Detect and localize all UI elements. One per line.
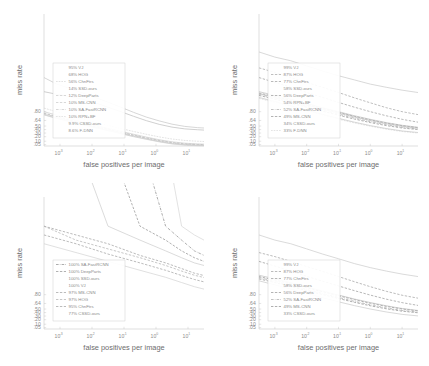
x-tick-label: 10-1 xyxy=(333,149,341,155)
x-tick-label: 101 xyxy=(397,149,405,155)
svg-text:0: 0 xyxy=(156,332,158,336)
legend-entry-label: 56% DeepParts xyxy=(284,290,314,295)
svg-text:1: 1 xyxy=(188,332,190,336)
legend-entry-label: 99% VJ xyxy=(284,262,299,267)
legend-entry-label: 10% SA-FastRCNN xyxy=(69,107,107,112)
svg-text:-1: -1 xyxy=(338,149,341,153)
svg-text:-2: -2 xyxy=(92,332,95,336)
x-tick-label: 101 xyxy=(183,332,191,338)
y-tick-label: .80 xyxy=(34,108,41,114)
legend-entry-label: 95% ChnFtrs xyxy=(69,304,94,309)
y-axis-label: miss rate xyxy=(15,248,24,278)
legend-entry-label: 58% SSD-ours xyxy=(284,283,312,288)
y-tick-label: .50 xyxy=(249,123,256,129)
legend-entry-label: 100% VJ xyxy=(69,283,86,288)
legend-entry-label: 33% CSSD-ours xyxy=(284,311,316,316)
x-tick-label: 100 xyxy=(365,149,373,155)
svg-text:-1: -1 xyxy=(124,149,127,153)
svg-text:-2: -2 xyxy=(306,332,309,336)
x-tick-label: 10-2 xyxy=(87,149,95,155)
svg-text:0: 0 xyxy=(371,332,373,336)
svg-text:-1: -1 xyxy=(124,332,127,336)
legend-entry-label: 9.9% CSSD-ours xyxy=(69,121,102,126)
legend-entry-label: 77% ChnFtrs xyxy=(284,276,309,281)
legend-entry-label: 54% RPN+BF xyxy=(284,100,311,105)
chart-panel-d: .05.10.20.30.40.50.64.80110-310-210-1100… xyxy=(215,183,429,366)
plot-b: .05.10.20.30.40.50.64.80110-310-210-1100… xyxy=(215,0,429,183)
svg-text:-2: -2 xyxy=(306,149,309,153)
x-tick-label: 10-2 xyxy=(301,332,309,338)
y-tick-label: .50 xyxy=(249,306,256,312)
x-tick-label: 10-1 xyxy=(119,149,127,155)
y-tick-label: .80 xyxy=(249,291,256,297)
chart-panel-a: .05.10.20.30.40.50.64.80110-310-210-1100… xyxy=(0,0,215,183)
svg-text:1: 1 xyxy=(402,332,404,336)
legend-entry-label: 77% CSSD-ours xyxy=(69,311,101,316)
x-tick-label: 10-3 xyxy=(55,149,63,155)
y-tick-label: .64 xyxy=(249,300,256,306)
legend-entry-label: 56% ChnFtrs xyxy=(69,79,94,84)
chart-panel-c: .05.10.20.30.40.50.64.80110-310-210-1100… xyxy=(0,183,215,366)
chart-legend: 99% VJ87% HOG77% ChnFtrs58% SSD-ours56% … xyxy=(268,63,340,138)
x-tick-label: 10-1 xyxy=(333,332,341,338)
plot-a: .05.10.20.30.40.50.64.80110-310-210-1100… xyxy=(0,0,215,183)
x-axis-label: false positives per image xyxy=(83,343,164,352)
svg-text:-3: -3 xyxy=(60,149,63,153)
y-axis-label: miss rate xyxy=(230,65,239,95)
legend-entry-label: 33% F-DNN xyxy=(284,128,307,133)
x-tick-label: 101 xyxy=(183,149,191,155)
legend-entry-label: 95% VJ xyxy=(69,65,84,70)
svg-text:1: 1 xyxy=(402,149,404,153)
legend-entry-label: 87% HOG xyxy=(284,269,304,274)
legend-entry-label: 10% RPN+BF xyxy=(69,114,96,119)
svg-text:-3: -3 xyxy=(275,149,278,153)
svg-text:-1: -1 xyxy=(338,332,341,336)
legend-entry-label: 10% MS-CNN xyxy=(69,100,96,105)
chart-legend: 99% VJ87% HOG77% ChnFtrs58% SSD-ours56% … xyxy=(268,260,340,321)
y-tick-label: .50 xyxy=(34,306,41,312)
legend-entry-label: 49% MS-CNN xyxy=(284,304,311,309)
x-axis-label: false positives per image xyxy=(83,160,164,169)
legend-entry-label: 100% DeepParts xyxy=(69,269,102,274)
x-axis-label: false positives per image xyxy=(298,160,379,169)
chart-legend: 100% SA-FastRCNN100% DeepParts100% SSD-o… xyxy=(53,260,125,321)
x-tick-label: 10-2 xyxy=(87,332,95,338)
legend-entry-label: 97% HOG xyxy=(69,297,89,302)
series-curve xyxy=(44,183,204,240)
series-curve xyxy=(44,183,204,265)
svg-text:1: 1 xyxy=(188,149,190,153)
figure-grid: .05.10.20.30.40.50.64.80110-310-210-1100… xyxy=(0,0,429,366)
svg-text:0: 0 xyxy=(371,149,373,153)
y-tick-label: .50 xyxy=(34,123,41,129)
plot-c: .05.10.20.30.40.50.64.80110-310-210-1100… xyxy=(0,183,215,366)
x-tick-label: 10-3 xyxy=(55,332,63,338)
y-tick-label: .80 xyxy=(249,108,256,114)
x-axis-label: false positives per image xyxy=(298,343,379,352)
y-axis-label: miss rate xyxy=(15,65,24,95)
y-axis-label: miss rate xyxy=(230,248,239,278)
x-tick-label: 101 xyxy=(397,332,405,338)
y-tick-label: .64 xyxy=(34,117,41,123)
legend-entry-label: 77% ChnFtrs xyxy=(284,79,309,84)
x-tick-label: 100 xyxy=(365,332,373,338)
svg-text:0: 0 xyxy=(156,149,158,153)
chart-legend: 95% VJ68% HOG56% ChnFtrs14% SSD-ours12% … xyxy=(53,63,125,138)
x-tick-label: 100 xyxy=(151,332,159,338)
legend-entry-label: 34% CSSD-ours xyxy=(284,121,316,126)
legend-entry-label: 68% HOG xyxy=(69,72,89,77)
legend-entry-label: 100% SSD-ours xyxy=(69,276,100,281)
chart-panel-b: .05.10.20.30.40.50.64.80110-310-210-1100… xyxy=(215,0,429,183)
plot-d: .05.10.20.30.40.50.64.80110-310-210-1100… xyxy=(215,183,429,366)
legend-entry-label: 52% SA-FastRCNN xyxy=(284,297,322,302)
x-tick-label: 10-2 xyxy=(301,149,309,155)
x-tick-label: 10-3 xyxy=(269,149,277,155)
legend-entry-label: 12% DeepParts xyxy=(69,93,99,98)
legend-entry-label: 56% DeepParts xyxy=(284,93,314,98)
legend-entry-label: 99% VJ xyxy=(284,65,299,70)
x-tick-label: 10-3 xyxy=(269,332,277,338)
legend-entry-label: 87% HOG xyxy=(284,72,304,77)
legend-entry-label: 49% MS-CNN xyxy=(284,114,311,119)
x-tick-label: 100 xyxy=(151,149,159,155)
x-tick-label: 10-1 xyxy=(119,332,127,338)
y-tick-label: .64 xyxy=(249,117,256,123)
